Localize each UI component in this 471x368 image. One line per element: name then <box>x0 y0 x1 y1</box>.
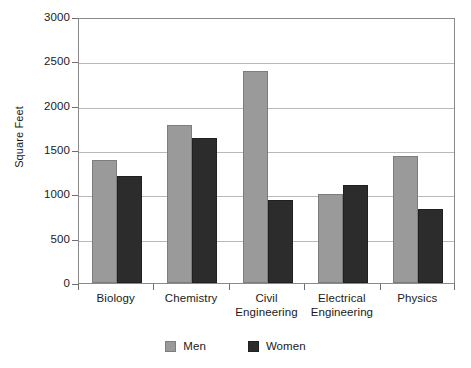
bar-women-physics <box>418 209 443 283</box>
x-category-label: Electrical Engineering <box>304 291 379 319</box>
bar-women-chemistry <box>192 138 217 283</box>
bar-women-civil-engineering <box>268 200 293 283</box>
x-tick-mark <box>380 284 381 290</box>
x-tick-mark <box>304 284 305 290</box>
bar-women-biology <box>117 176 142 283</box>
plot-area <box>78 18 455 284</box>
x-tick-mark <box>229 284 230 290</box>
women-swatch-icon <box>248 341 259 352</box>
y-tick-label: 1000 <box>28 189 70 200</box>
y-tick-label: 0 <box>28 278 70 289</box>
bar-women-electrical-engineering <box>343 185 368 283</box>
x-category-label: Civil Engineering <box>229 291 304 319</box>
x-tick-mark <box>78 284 79 290</box>
chart-legend: MenWomen <box>0 340 471 352</box>
x-category-label: Chemistry <box>153 291 228 305</box>
bar-men-electrical-engineering <box>318 194 343 283</box>
bar-men-chemistry <box>167 125 192 283</box>
y-tick-label: 2000 <box>28 101 70 112</box>
x-tick-mark <box>153 284 154 290</box>
y-tick-label: 3000 <box>28 12 70 23</box>
bar-chart: Square Feet 050010001500200025003000 Bio… <box>0 0 471 368</box>
legend-label: Women <box>266 340 306 352</box>
bar-men-physics <box>393 156 418 283</box>
y-axis-title: Square Feet <box>11 87 27 187</box>
x-category-label: Biology <box>78 291 153 305</box>
y-axis-tick-labels: 050010001500200025003000 <box>26 0 70 368</box>
legend-entry-women[interactable]: Women <box>248 340 306 352</box>
y-tick-label: 500 <box>28 234 70 245</box>
bar-men-biology <box>92 160 117 283</box>
x-tick-mark <box>454 284 455 290</box>
men-swatch-icon <box>165 341 176 352</box>
x-category-label: Physics <box>380 291 455 305</box>
gridline <box>79 63 454 64</box>
legend-label: Men <box>183 340 206 352</box>
y-tick-label: 2500 <box>28 56 70 67</box>
bar-men-civil-engineering <box>243 71 268 283</box>
y-tick-label: 1500 <box>28 145 70 156</box>
legend-entry-men[interactable]: Men <box>165 340 206 352</box>
